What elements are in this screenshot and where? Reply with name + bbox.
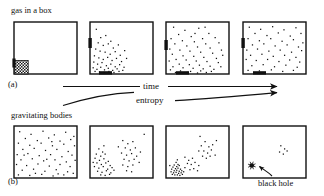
particle bbox=[52, 145, 53, 146]
particle bbox=[132, 141, 133, 142]
particle bbox=[184, 167, 185, 168]
particle bbox=[198, 28, 199, 29]
particle bbox=[218, 62, 219, 63]
particle bbox=[180, 70, 181, 71]
door-mark-bottom-a2 bbox=[99, 71, 112, 74]
particle bbox=[266, 35, 267, 36]
particle bbox=[115, 66, 116, 67]
particle bbox=[66, 161, 67, 162]
particle bbox=[285, 65, 286, 66]
particle bbox=[261, 54, 262, 55]
particle bbox=[110, 41, 111, 42]
entropy-arrow-right-segment bbox=[175, 93, 277, 101]
particle bbox=[301, 50, 302, 51]
particle bbox=[94, 55, 95, 56]
panel-b1 bbox=[14, 126, 77, 178]
particle bbox=[202, 38, 203, 39]
particle bbox=[201, 145, 202, 146]
particle bbox=[206, 158, 207, 159]
particle bbox=[193, 168, 194, 169]
particle bbox=[131, 153, 132, 154]
particle bbox=[105, 35, 106, 36]
particle bbox=[299, 61, 300, 62]
particle bbox=[205, 43, 206, 44]
particle bbox=[254, 33, 255, 34]
entropy-arrow-left-segment bbox=[63, 92, 134, 105]
particle bbox=[106, 65, 107, 66]
particle bbox=[220, 66, 221, 67]
particle bbox=[215, 155, 216, 156]
particle bbox=[105, 153, 106, 154]
particle bbox=[101, 172, 102, 173]
particle bbox=[96, 29, 97, 30]
particle bbox=[170, 69, 171, 70]
particle bbox=[172, 54, 173, 55]
particle bbox=[113, 72, 114, 73]
particle bbox=[116, 68, 117, 69]
particle bbox=[93, 61, 94, 62]
particle bbox=[172, 66, 173, 67]
particle bbox=[170, 171, 171, 172]
particle bbox=[113, 47, 114, 48]
particle bbox=[190, 71, 191, 72]
particle bbox=[109, 174, 110, 175]
particle bbox=[54, 134, 55, 135]
row-a-panels bbox=[12, 22, 306, 75]
particle bbox=[56, 149, 57, 150]
particle bbox=[94, 158, 95, 159]
particle bbox=[35, 173, 36, 174]
particle bbox=[257, 48, 258, 49]
particle bbox=[169, 60, 170, 61]
particle bbox=[179, 49, 180, 50]
particle bbox=[113, 170, 114, 171]
particle bbox=[63, 174, 64, 175]
particle bbox=[49, 165, 50, 166]
particle bbox=[97, 64, 98, 65]
particle bbox=[69, 166, 70, 167]
particle bbox=[61, 156, 62, 157]
particle bbox=[259, 70, 260, 71]
particle bbox=[297, 67, 298, 68]
particle bbox=[124, 50, 125, 51]
particle bbox=[173, 172, 174, 173]
particle bbox=[33, 169, 34, 170]
door-mark-left-a1 bbox=[12, 59, 15, 68]
particle bbox=[280, 145, 281, 146]
panel-a4 bbox=[241, 22, 306, 75]
particle bbox=[110, 172, 111, 173]
particle bbox=[140, 151, 141, 152]
particle bbox=[208, 33, 209, 34]
particle bbox=[179, 171, 180, 172]
particle bbox=[186, 45, 187, 46]
particle bbox=[54, 159, 55, 160]
particle bbox=[197, 170, 198, 171]
particle bbox=[169, 48, 170, 49]
particle bbox=[126, 155, 127, 156]
particle bbox=[295, 57, 296, 58]
particle bbox=[189, 64, 190, 65]
particle bbox=[194, 33, 195, 34]
particle bbox=[50, 154, 51, 155]
particle bbox=[68, 151, 69, 152]
particle bbox=[37, 163, 38, 164]
particle bbox=[273, 56, 274, 57]
particle bbox=[99, 51, 100, 52]
particle bbox=[52, 175, 53, 176]
particle bbox=[203, 57, 204, 58]
particle bbox=[210, 156, 211, 157]
arrow-group bbox=[63, 87, 277, 106]
particle bbox=[278, 32, 279, 33]
particle bbox=[216, 58, 217, 59]
particle bbox=[181, 170, 182, 171]
particle bbox=[183, 171, 184, 172]
particle bbox=[184, 30, 185, 31]
particle bbox=[27, 153, 28, 154]
particle bbox=[177, 164, 178, 165]
panel-b4 bbox=[243, 126, 306, 178]
particle bbox=[172, 174, 173, 175]
door-mark-left-a3 bbox=[164, 40, 167, 50]
particle bbox=[208, 146, 209, 147]
particle bbox=[122, 164, 123, 165]
particle bbox=[179, 165, 180, 166]
particle bbox=[284, 55, 285, 56]
